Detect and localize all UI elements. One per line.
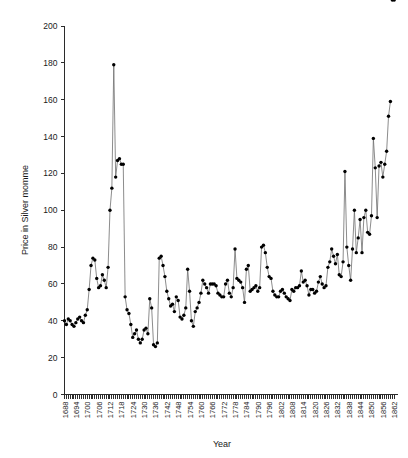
x-tick-label: 1832 [333,402,342,419]
price-time-series-chart: 020406080100120140160180200 168816941700… [0,0,408,458]
data-point [315,290,318,293]
x-tick-label: 1754 [186,402,195,419]
x-tick-label: 1694 [72,402,81,419]
x-tick-label: 1760 [197,402,206,419]
data-point [139,341,142,344]
data-point [347,264,350,267]
x-tick-label: 1700 [83,402,92,419]
data-point [341,260,344,263]
y-axis-title: Price in Silver momme [20,165,30,255]
data-point [188,290,191,293]
price-series-line [65,65,391,347]
data-point [101,273,104,276]
data-point [353,209,356,212]
data-point [106,266,109,269]
data-point [165,290,168,293]
data-point [87,288,90,291]
x-tick-label: 1850 [367,402,376,419]
data-point [125,308,128,311]
x-tick-label: 1790 [254,402,263,419]
data-point [131,336,134,339]
x-tick-label: 1778 [231,402,240,419]
x-tick-label: 1808 [288,402,297,419]
data-point [387,115,390,118]
data-point [305,284,308,287]
data-point [307,293,310,296]
data-point [264,251,267,254]
data-point [163,275,166,278]
data-point [148,297,151,300]
data-point [368,233,371,236]
data-point [108,209,111,212]
data-point [192,325,195,328]
data-point [292,290,295,293]
data-point [176,299,179,302]
data-point [224,282,227,285]
x-tick-label: 1712 [106,402,115,419]
data-point [336,253,339,256]
chart-figure: 020406080100120140160180200 168816941700… [0,0,408,458]
data-point [89,264,92,267]
data-point [330,247,333,250]
data-point [186,268,189,271]
x-tick-label: 1814 [299,402,308,419]
data-point [283,291,286,294]
x-tick-label: 1736 [151,402,160,419]
data-point [140,338,143,341]
data-point [207,291,210,294]
data-point [93,258,96,261]
data-point [214,284,217,287]
data-point [256,290,259,293]
data-point [197,301,200,304]
data-point [110,186,113,189]
data-point [228,291,231,294]
data-point [311,288,314,291]
x-axis-tick-labels: 1688169417001706171217181724173017361742… [61,402,400,419]
data-point [127,312,130,315]
data-point [175,295,178,298]
data-point [205,286,208,289]
data-point [133,332,136,335]
data-point [123,295,126,298]
x-tick-label: 1844 [356,402,365,419]
y-tick-label: 40 [48,316,58,326]
data-point [383,162,386,165]
y-tick-label: 0 [53,390,58,400]
x-tick-label: 1862 [390,402,399,419]
data-point [65,323,68,326]
data-point [104,286,107,289]
y-axis-ticks: 020406080100120140160180200 [43,21,64,400]
data-point [203,282,206,285]
x-axis-title: Year [213,439,231,449]
data-point [226,279,229,282]
data-point [150,306,153,309]
data-point [288,299,291,302]
data-point [339,275,342,278]
data-point [379,161,382,164]
data-point [86,308,89,311]
data-point [358,218,361,221]
data-point [243,301,246,304]
y-tick-label: 100 [43,205,57,215]
data-point [171,303,174,306]
data-point [300,269,303,272]
data-point [355,251,358,254]
data-point [364,209,367,212]
x-tick-label: 1856 [379,402,388,419]
data-point [262,244,265,247]
data-point [389,100,392,103]
y-tick-label: 120 [43,168,57,178]
data-point [351,247,354,250]
y-tick-label: 20 [48,353,58,363]
y-tick-label: 180 [43,58,57,68]
data-point [245,268,248,271]
data-point [370,214,373,217]
data-point [349,279,352,282]
data-point [137,338,140,341]
data-point [254,284,257,287]
x-tick-label: 1748 [174,402,183,419]
data-point [72,325,75,328]
x-tick-label: 1718 [117,402,126,419]
data-point [381,175,384,178]
data-point [303,279,306,282]
